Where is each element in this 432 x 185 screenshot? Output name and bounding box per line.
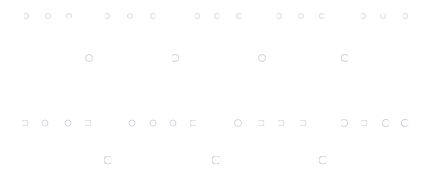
small-circle-glyph — [104, 156, 113, 165]
small-circle-glyph — [276, 13, 282, 19]
small-circle-glyph — [214, 13, 220, 19]
small-circle-glyph — [298, 13, 304, 19]
small-circle-glyph — [236, 13, 242, 19]
small-circle-glyph — [22, 120, 29, 127]
glyph-row-2 — [0, 0, 432, 185]
glyph-row-3 — [0, 0, 432, 185]
small-circle-glyph — [319, 13, 325, 19]
small-circle-glyph — [300, 120, 307, 127]
small-circle-glyph — [382, 119, 390, 127]
small-circle-glyph — [402, 13, 408, 19]
small-circle-glyph — [194, 13, 200, 19]
small-circle-glyph — [127, 13, 133, 19]
small-circle-glyph — [212, 156, 221, 165]
small-circle-glyph — [319, 156, 328, 165]
small-circle-glyph — [258, 54, 266, 62]
small-circle-glyph — [104, 13, 110, 19]
small-circle-glyph — [341, 54, 349, 62]
small-circle-glyph — [85, 54, 93, 62]
small-circle-glyph — [150, 13, 156, 19]
small-circle-glyph — [401, 119, 409, 127]
small-circle-glyph — [85, 120, 92, 127]
small-circle-glyph — [45, 13, 51, 19]
glyph-row-1 — [0, 0, 432, 185]
small-circle-glyph — [129, 120, 136, 127]
small-circle-glyph — [65, 120, 72, 127]
small-circle-glyph — [42, 120, 49, 127]
small-circle-glyph — [361, 120, 368, 127]
dot-pattern-canvas — [0, 0, 432, 185]
small-circle-glyph — [278, 120, 285, 127]
small-circle-glyph — [340, 119, 348, 127]
small-circle-glyph — [258, 120, 265, 127]
small-circle-glyph — [170, 120, 177, 127]
small-circle-glyph — [23, 13, 29, 19]
small-circle-glyph — [66, 13, 72, 19]
small-circle-glyph — [171, 54, 179, 62]
small-circle-glyph — [360, 13, 366, 19]
small-circle-glyph — [234, 119, 242, 127]
small-circle-glyph — [150, 120, 157, 127]
small-circle-glyph — [190, 120, 197, 127]
glyph-row-4 — [0, 0, 432, 185]
small-circle-glyph — [380, 13, 386, 19]
